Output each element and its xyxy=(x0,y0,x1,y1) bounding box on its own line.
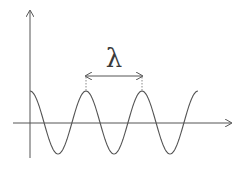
wavelength-label: λ xyxy=(102,45,126,71)
wave-diagram xyxy=(0,0,244,169)
